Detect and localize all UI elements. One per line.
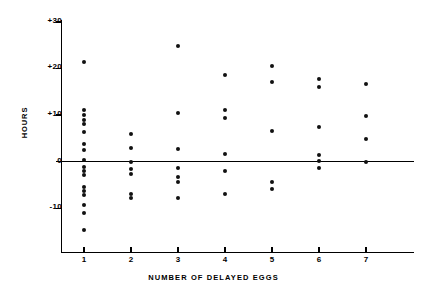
x-tick-label: 6 bbox=[307, 255, 331, 264]
data-point bbox=[176, 180, 180, 184]
data-point bbox=[176, 44, 180, 48]
zero-reference-line bbox=[61, 161, 415, 162]
x-tick-label: 1 bbox=[72, 255, 96, 264]
data-point bbox=[82, 173, 86, 177]
data-point bbox=[82, 211, 86, 215]
data-point bbox=[82, 122, 86, 126]
data-point bbox=[82, 228, 86, 232]
data-point bbox=[82, 165, 86, 169]
data-point bbox=[364, 137, 368, 141]
data-point bbox=[129, 160, 133, 164]
y-axis-label: HOURS bbox=[20, 93, 29, 153]
data-point bbox=[82, 148, 86, 152]
data-point bbox=[270, 187, 274, 191]
data-point bbox=[82, 203, 86, 207]
data-point bbox=[317, 159, 321, 163]
data-point bbox=[270, 129, 274, 133]
x-axis-label: NUMBER OF DELAYED EGGS bbox=[0, 273, 427, 282]
data-point bbox=[223, 152, 227, 156]
x-tick-mark bbox=[271, 247, 272, 252]
x-tick-mark bbox=[224, 247, 225, 252]
data-point bbox=[82, 130, 86, 134]
scatter-plot-figure: HOURS NUMBER OF DELAYED EGGS +30+20+100-… bbox=[0, 0, 427, 294]
y-tick-label: +30 bbox=[22, 17, 62, 27]
data-point bbox=[223, 169, 227, 173]
x-tick-mark bbox=[83, 247, 84, 252]
data-point bbox=[176, 111, 180, 115]
x-tick-mark bbox=[177, 247, 178, 252]
x-tick-label: 3 bbox=[166, 255, 190, 264]
data-point bbox=[129, 167, 133, 171]
y-tick-label-text: +20 bbox=[22, 63, 62, 71]
data-point bbox=[129, 196, 133, 200]
data-point bbox=[129, 146, 133, 150]
y-tick-label: -10 bbox=[22, 203, 62, 213]
data-point bbox=[364, 114, 368, 118]
data-point bbox=[317, 166, 321, 170]
data-point bbox=[176, 175, 180, 179]
y-tick-label-text: 0 bbox=[22, 157, 62, 165]
y-tick-label-text: +30 bbox=[22, 17, 62, 25]
y-tick-label: +20 bbox=[22, 63, 62, 73]
data-point bbox=[364, 160, 368, 164]
x-tick-label: 2 bbox=[119, 255, 143, 264]
x-tick-mark bbox=[130, 247, 131, 252]
data-point bbox=[270, 80, 274, 84]
x-tick-label: 5 bbox=[260, 255, 284, 264]
y-tick-label: 0 bbox=[22, 157, 62, 167]
data-point bbox=[129, 172, 133, 176]
data-point bbox=[82, 118, 86, 122]
data-point bbox=[82, 108, 86, 112]
data-point bbox=[223, 192, 227, 196]
data-point bbox=[223, 108, 227, 112]
data-point bbox=[176, 166, 180, 170]
data-point bbox=[317, 85, 321, 89]
data-point bbox=[317, 125, 321, 129]
x-tick-label: 7 bbox=[354, 255, 378, 264]
data-point bbox=[270, 180, 274, 184]
data-point bbox=[176, 196, 180, 200]
x-tick-mark bbox=[318, 247, 319, 252]
data-point bbox=[82, 142, 86, 146]
data-point bbox=[364, 82, 368, 86]
data-point bbox=[317, 153, 321, 157]
data-point bbox=[129, 132, 133, 136]
y-tick-label-text: +10 bbox=[22, 110, 62, 118]
data-point bbox=[82, 60, 86, 64]
x-tick-mark bbox=[365, 247, 366, 252]
data-point bbox=[176, 147, 180, 151]
data-point bbox=[223, 73, 227, 77]
y-axis-line bbox=[61, 20, 63, 252]
data-point bbox=[270, 64, 274, 68]
y-tick-label-text: -10 bbox=[22, 203, 62, 211]
x-axis-line bbox=[61, 252, 415, 254]
data-point bbox=[82, 113, 86, 117]
data-point bbox=[317, 77, 321, 81]
data-point bbox=[82, 193, 86, 197]
y-tick-label: +10 bbox=[22, 110, 62, 120]
data-point bbox=[223, 116, 227, 120]
x-tick-label: 4 bbox=[213, 255, 237, 264]
